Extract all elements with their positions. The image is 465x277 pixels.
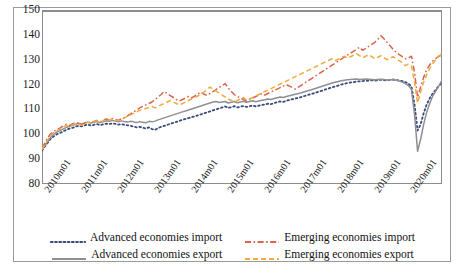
legend-item-emerging-economies-export: Emerging economies export [244,248,413,260]
y-axis-tick: 150 [10,4,40,15]
series-line [42,80,442,151]
legend-label-emerging-import: Emerging economies import [284,231,415,243]
legend-swatch-advanced-export [51,249,87,258]
legend-item-emerging-economies-import: Emerging economies import [244,231,415,243]
series-line [42,36,442,148]
legend-swatch-emerging-export [244,249,280,258]
y-axis-tick: 90 [10,153,40,164]
legend-swatch-emerging-import [244,232,280,241]
legend-item-advanced-economies-import: Advanced economies import [50,231,222,243]
legend-label-emerging-export: Emerging economies export [284,248,413,260]
legend-row-1: Advanced economies import Emerging econo… [0,228,465,245]
legend-label-advanced-export: Advanced economies export [91,248,222,260]
y-axis-tick: 140 [10,29,40,40]
y-axis-tick: 100 [10,128,40,139]
y-axis-tick: 120 [10,79,40,90]
legend-swatch-advanced-import [50,232,86,241]
legend-label-advanced-import: Advanced economies import [90,231,222,243]
legend-row-2: Advanced economies export Emerging econo… [0,245,465,262]
chart-figure: 1501401301201101009080 2010m012011m01201… [0,0,465,277]
y-axis-tick: 110 [10,103,40,114]
y-axis-tick: 130 [10,54,40,65]
y-axis: 1501401301201101009080 [6,0,40,200]
series-line [42,79,442,151]
chart-legend: Advanced economies import Emerging econo… [0,228,465,262]
legend-item-advanced-economies-export: Advanced economies export [51,248,222,260]
